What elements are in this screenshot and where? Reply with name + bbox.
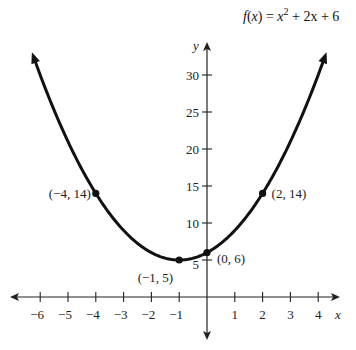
y-tick-label: 25 (186, 105, 199, 120)
x-tick-label: −2 (141, 307, 155, 322)
point-label: (−1, 5) (138, 270, 174, 285)
x-axis-label: x (334, 307, 341, 322)
x-tick-label: −1 (169, 307, 183, 322)
x-tick-label: 1 (232, 307, 239, 322)
curve-left-arrow-icon (31, 52, 39, 64)
y-tick-label: 20 (186, 142, 199, 157)
x-tick-label: −6 (30, 307, 44, 322)
parabola-chart: xy−6−5−4−3−2−1123451015202530(−4, 14)(−1… (0, 0, 356, 350)
x-tick-label: 2 (259, 307, 266, 322)
y-tick-label: 15 (186, 179, 199, 194)
parabola-curve (33, 56, 325, 260)
y-tick-label: 30 (186, 68, 199, 83)
data-point (92, 190, 99, 197)
y-axis-label: y (191, 38, 199, 53)
data-point (203, 249, 210, 256)
data-point (259, 190, 266, 197)
point-label: (0, 6) (217, 251, 245, 266)
x-tick-label: −3 (114, 307, 128, 322)
curve-right-arrow-icon (319, 52, 327, 64)
y-tick-label: 10 (186, 216, 199, 231)
x-tick-label: 4 (315, 307, 322, 322)
point-label: (−4, 14) (49, 186, 91, 201)
x-tick-label: −5 (58, 307, 72, 322)
x-tick-label: 3 (287, 307, 294, 322)
point-label: (2, 14) (272, 186, 307, 201)
data-point (176, 256, 183, 263)
x-tick-label: −4 (86, 307, 100, 322)
